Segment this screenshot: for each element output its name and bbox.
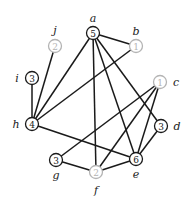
edge-a-h [32,33,93,124]
node-value: 6 [133,155,139,165]
edge-h-e [32,124,136,159]
node-value: 3 [29,74,35,84]
node-j: 2j [49,24,62,53]
edge-j-h [32,46,55,124]
edge-a-e [93,33,136,159]
node-i: 3i [15,72,38,85]
node-label: g [52,169,59,182]
node-value: 1 [157,78,163,88]
node-label: i [15,72,19,85]
node-c: 1c [154,76,180,89]
node-label: c [173,76,179,89]
node-f: 2f [90,166,103,197]
node-label: h [12,118,19,131]
graph-svg: 5a1b1c3d6e2f3g4h3i2j [0,0,187,206]
node-label: a [90,12,97,25]
graph-diagram: 5a1b1c3d6e2f3g4h3i2j [0,0,187,206]
node-a: 5a [87,12,100,40]
node-e: 6e [130,153,143,181]
edges [32,33,161,172]
node-label: f [93,184,100,197]
node-b: 1b [130,25,143,53]
node-value: 2 [93,168,99,178]
node-label: j [50,24,57,37]
node-g: 3g [50,154,63,182]
node-value: 3 [158,122,164,132]
edge-c-f [96,82,160,172]
node-label: e [133,168,140,181]
node-value: 3 [53,156,59,166]
node-h: 4h [12,118,38,131]
edge-a-f [93,33,96,172]
node-value: 5 [90,29,96,39]
node-label: b [132,25,139,38]
node-value: 1 [133,42,139,52]
node-d: 3d [155,120,181,133]
node-label: d [173,120,180,133]
node-value: 2 [52,42,58,52]
node-value: 4 [29,120,35,130]
